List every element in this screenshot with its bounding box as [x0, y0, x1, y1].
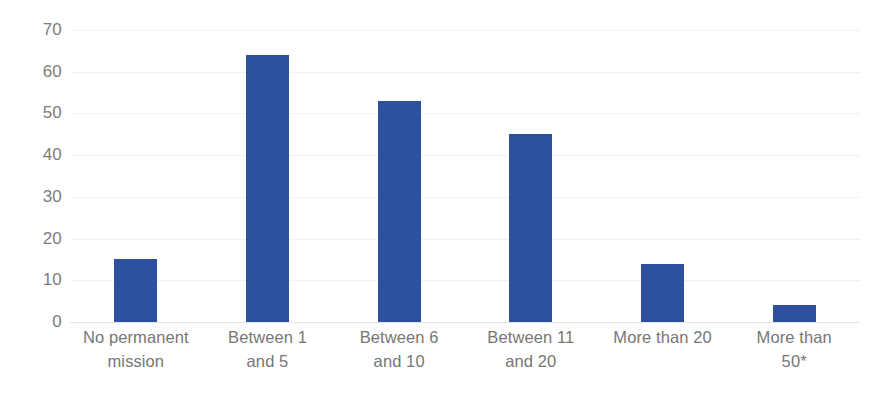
- x-axis-tick-label-line: Between 1: [202, 326, 334, 350]
- x-axis: No permanentmissionBetween 1and 5Between…: [70, 326, 860, 392]
- axis-baseline: [70, 322, 860, 323]
- x-axis-tick-label: More than 20: [597, 326, 729, 350]
- y-axis: 010203040506070: [10, 30, 62, 322]
- bar-chart: 010203040506070 No permanentmissionBetwe…: [0, 0, 869, 398]
- x-axis-tick-label: More than50*: [728, 326, 860, 374]
- x-axis-tick-label-line: and 20: [465, 350, 597, 374]
- y-axis-tick-label: 70: [20, 21, 62, 38]
- y-axis-tick-label: 60: [20, 63, 62, 80]
- bar-series: [70, 30, 860, 322]
- bar: [246, 55, 289, 322]
- bar: [378, 101, 421, 322]
- x-axis-tick-label-line: More than: [728, 326, 860, 350]
- x-axis-tick-label-line: and 5: [202, 350, 334, 374]
- y-axis-tick-label: 30: [20, 188, 62, 205]
- bar: [114, 259, 157, 322]
- y-axis-tick-label: 10: [20, 271, 62, 288]
- bar: [509, 134, 552, 322]
- x-axis-tick-label-line: 50*: [728, 350, 860, 374]
- x-axis-tick-label-line: No permanent: [70, 326, 202, 350]
- x-axis-tick-label-line: and 10: [333, 350, 465, 374]
- x-axis-tick-label-line: More than 20: [597, 326, 729, 350]
- bar: [641, 264, 684, 322]
- y-axis-tick-label: 40: [20, 146, 62, 163]
- x-axis-tick-label-line: mission: [70, 350, 202, 374]
- x-axis-tick-label-line: Between 6: [333, 326, 465, 350]
- x-axis-tick-label: Between 11and 20: [465, 326, 597, 374]
- y-axis-tick-label: 0: [20, 313, 62, 330]
- x-axis-tick-label-line: Between 11: [465, 326, 597, 350]
- x-axis-tick-label: Between 1and 5: [202, 326, 334, 374]
- y-axis-tick-label: 50: [20, 104, 62, 121]
- y-axis-tick-label: 20: [20, 230, 62, 247]
- x-axis-tick-label: No permanentmission: [70, 326, 202, 374]
- bar: [773, 305, 816, 322]
- x-axis-tick-label: Between 6and 10: [333, 326, 465, 374]
